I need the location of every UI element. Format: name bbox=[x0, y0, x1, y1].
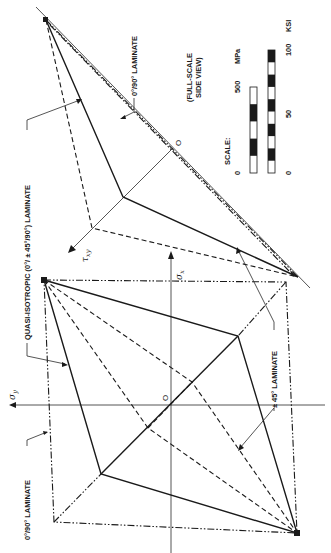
ksi-mid-label: 50 bbox=[284, 110, 293, 118]
scale-legend: SCALE: 0 500 MPa 0 50 100 KSI bbox=[223, 20, 293, 175]
laminate-0-90-bottom-label: 0°/90° LAMINATE bbox=[23, 480, 32, 540]
scale-label: SCALE: bbox=[223, 137, 232, 165]
laminate-0-90-top-label: 0°/90° LAMINATE bbox=[130, 36, 139, 96]
mpa-unit-label: MPa bbox=[233, 48, 242, 64]
laminate-0-90-diag bbox=[54, 474, 101, 522]
ksi-max-label: 100 bbox=[284, 44, 293, 56]
origin-upper-label: O bbox=[174, 140, 183, 146]
origin-lower-label: O bbox=[161, 395, 170, 401]
pm45-label: ± 45° LAMINATE bbox=[270, 351, 279, 408]
mpa-max-label: 500 bbox=[233, 81, 242, 93]
quasi-isotropic-envelope bbox=[44, 280, 297, 533]
tau-xy-label: τxy bbox=[80, 249, 92, 262]
side-view-label: SIDE VIEW) bbox=[194, 57, 203, 98]
ksi-unit-label: KSI bbox=[284, 20, 293, 32]
laminate-0-90-side bbox=[46, 20, 298, 277]
sigma-y-arrowhead-icon bbox=[9, 402, 16, 408]
ksi-scale-bar bbox=[268, 50, 275, 173]
full-scale-label: (FULL-SCALE bbox=[185, 53, 194, 102]
ksi-zero-label: 0 bbox=[284, 171, 293, 175]
tau-xy-axis bbox=[72, 148, 173, 249]
sigma-y-label: σy bbox=[7, 390, 19, 400]
leader-pm45-lower bbox=[240, 408, 274, 448]
quasi-isotropic-label: QUASI-ISOTROPIC (0°/ ± 45°/90°) LAMINATE bbox=[23, 185, 32, 340]
mpa-scale-bar bbox=[250, 87, 257, 173]
in-plane-envelope: O σy σx 0°/90° LAMINATE QUASI-ISOTROPIC … bbox=[7, 99, 325, 553]
mpa-zero-label: 0 bbox=[233, 171, 242, 175]
sigma-x-arrowhead-icon bbox=[168, 251, 174, 259]
leader-quasi-isotropic-upper bbox=[27, 100, 80, 130]
laminate-0-90-diag bbox=[238, 282, 286, 336]
failure-envelope-diagram: O σy σx 0°/90° LAMINATE QUASI-ISOTROPIC … bbox=[0, 0, 331, 553]
leader-pm45-upper bbox=[238, 250, 274, 330]
sigma-x-label: σx bbox=[174, 270, 186, 280]
leader-quasi-isotropic-lower bbox=[27, 343, 65, 364]
